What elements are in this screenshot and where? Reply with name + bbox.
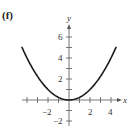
y-tick-label-2: 2	[58, 74, 63, 84]
x-tick-label-4: 4	[108, 107, 113, 117]
panel-label: (f)	[2, 9, 13, 22]
chart-canvas: (f) x y −2 2 4 6 4 2 −2	[0, 0, 130, 132]
y-axis-label: y	[66, 13, 71, 23]
y-tick-label-neg2: −2	[53, 116, 63, 126]
y-tick-label-4: 4	[58, 53, 63, 63]
x-axis-label: x	[122, 95, 127, 105]
y-tick-label-6: 6	[58, 32, 63, 42]
y-axis-arrow-icon	[67, 24, 71, 29]
x-tick-label-neg2: −2	[42, 107, 52, 117]
x-axis-arrow-icon	[117, 98, 122, 102]
x-tick-label-2: 2	[88, 107, 93, 117]
